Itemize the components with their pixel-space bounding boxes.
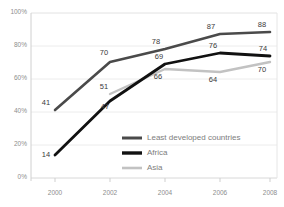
legend-item-least-developed-countries[interactable]: Least developed countries <box>147 134 240 142</box>
point-label-ldc-2000: 41 <box>38 99 54 107</box>
point-label-africa-2002: 47 <box>97 103 113 111</box>
y-axis-tick-0: 0% <box>1 174 27 181</box>
point-label-ldc-2006: 87 <box>203 23 219 31</box>
point-label-asia-2004: 66 <box>150 73 166 81</box>
y-axis-tick-80: 80% <box>1 42 27 49</box>
x-axis-tick-2008: 2008 <box>255 190 284 197</box>
x-axis-tick-2002: 2002 <box>95 190 125 197</box>
point-label-asia-2008: 70 <box>254 66 270 74</box>
point-label-africa-2006: 76 <box>205 42 221 50</box>
point-label-africa-2008: 74 <box>255 45 271 53</box>
legend-item-asia[interactable]: Asia <box>147 164 163 172</box>
series-line-asia <box>110 62 270 94</box>
x-axis-tick-2006: 2006 <box>205 190 235 197</box>
x-axis-tick-2004: 2004 <box>150 190 180 197</box>
y-axis-tick-60: 60% <box>1 75 27 82</box>
y-axis-tick-20: 20% <box>1 141 27 148</box>
x-axis-tick-2000: 2000 <box>40 190 70 197</box>
point-label-africa-2000: 14 <box>38 151 54 159</box>
legend-swatches <box>122 138 142 168</box>
point-label-ldc-2008: 88 <box>254 21 270 29</box>
legend-item-africa[interactable]: Africa <box>147 149 167 157</box>
point-label-africa-2004: 69 <box>151 53 167 61</box>
line-chart: 100% 80% 60% 40% 20% 0% 2000 2002 2004 2… <box>0 0 284 207</box>
point-label-asia-2006: 64 <box>205 76 221 84</box>
point-label-ldc-2004: 78 <box>148 38 164 46</box>
y-axis-tick-100: 100% <box>1 9 27 16</box>
y-axis-tick-40: 40% <box>1 108 27 115</box>
x-axis-ticks <box>55 178 270 182</box>
point-label-asia-2002: 51 <box>96 83 112 91</box>
point-label-ldc-2002: 70 <box>96 49 112 57</box>
